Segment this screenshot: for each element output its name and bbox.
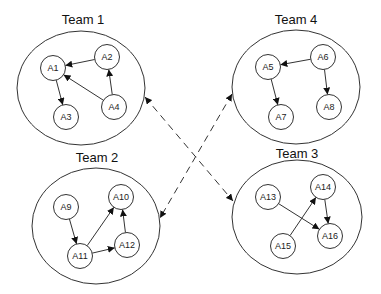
edge-a14-to-a16 — [325, 199, 328, 223]
edge-a4-to-a1 — [64, 75, 104, 101]
agent-node: A1 — [41, 56, 66, 81]
agent-node: A14 — [311, 175, 336, 200]
edge-a1-to-a3 — [56, 80, 63, 105]
agent-node: A2 — [95, 45, 120, 70]
agent-node: A11 — [68, 244, 93, 269]
team-3: Team 2 — [32, 150, 160, 284]
edge-a6-to-a8 — [324, 69, 327, 94]
edge-a2-to-a1 — [65, 59, 95, 65]
team-label: Team 3 — [276, 146, 319, 161]
team-boundary — [232, 160, 362, 274]
agent-label: A7 — [275, 112, 286, 122]
teams: Team 1Team 4Team 2Team 3 — [17, 12, 362, 284]
edge-a11-to-a12 — [92, 248, 115, 253]
agent-label: A1 — [47, 63, 58, 73]
agent-label: A8 — [323, 102, 334, 112]
agent-label: A11 — [72, 251, 87, 261]
edge-a6-to-a5 — [280, 59, 310, 65]
agent-label: A13 — [260, 192, 276, 202]
agent-node: A16 — [318, 224, 343, 249]
agent-node: A9 — [54, 195, 79, 220]
team-2: Team 4 — [232, 12, 360, 144]
agent-node: A13 — [256, 185, 281, 210]
team-link-team4-team2 — [160, 94, 232, 218]
agent-node: A8 — [317, 95, 342, 120]
agent-node: A7 — [269, 105, 294, 130]
team-1: Team 1 — [17, 12, 145, 145]
edge-a5-to-a7 — [271, 79, 278, 105]
edge-a15-to-a14 — [290, 197, 316, 235]
edge-a9-to-a11 — [69, 219, 76, 244]
agent-label: A16 — [322, 231, 338, 241]
team-boundary — [32, 168, 160, 284]
team-agent-diagram: Team 1Team 4Team 2Team 3 A1A2A3A4A5A6A7A… — [0, 0, 381, 294]
agent-label: A9 — [60, 202, 71, 212]
agent-label: A10 — [113, 192, 129, 202]
team-links — [145, 94, 233, 218]
agent-label: A2 — [101, 52, 112, 62]
edge-a11-to-a10 — [87, 207, 114, 245]
agent-node: A6 — [311, 45, 336, 70]
team-boundary — [232, 30, 360, 144]
agent-node: A10 — [109, 185, 134, 210]
team-link-team1-team3 — [145, 97, 233, 201]
team-4: Team 3 — [232, 146, 362, 274]
agent-label: A12 — [119, 240, 135, 250]
agent-label: A3 — [60, 112, 71, 122]
agent-label: A4 — [108, 102, 119, 112]
agent-label: A14 — [315, 182, 331, 192]
edge-a13-to-a16 — [279, 204, 320, 230]
edge-a4-to-a2 — [109, 69, 113, 94]
team-label: Team 4 — [275, 12, 318, 27]
team-label: Team 2 — [76, 150, 119, 165]
agent-node: A15 — [271, 234, 296, 259]
agent-node: A4 — [102, 95, 127, 120]
edge-a12-to-a10 — [123, 209, 126, 232]
agent-label: A5 — [262, 62, 273, 72]
agent-label: A15 — [275, 241, 291, 251]
agent-node: A5 — [256, 55, 281, 80]
team-boundary — [17, 31, 145, 145]
agent-node: A12 — [115, 233, 140, 258]
team-label: Team 1 — [62, 12, 105, 27]
agent-label: A6 — [317, 52, 328, 62]
agent-node: A3 — [54, 105, 79, 130]
